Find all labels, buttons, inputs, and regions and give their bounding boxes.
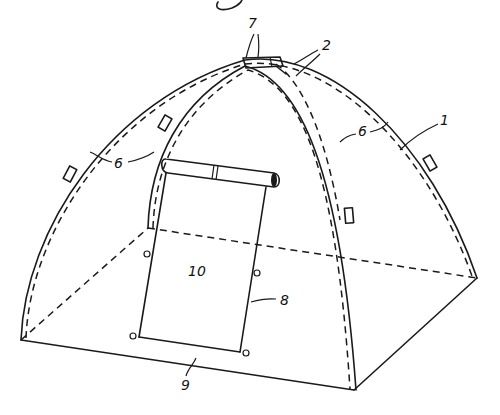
pole-clip-right <box>423 155 437 171</box>
svg-text:7: 7 <box>248 15 257 31</box>
svg-text:10: 10 <box>188 263 206 279</box>
inner-pole-arch <box>148 64 356 390</box>
svg-text:1: 1 <box>440 112 449 128</box>
tent-base <box>21 228 477 390</box>
svg-text:8: 8 <box>280 292 289 308</box>
svg-text:6: 6 <box>358 123 367 139</box>
label-8: 8 <box>251 292 289 308</box>
svg-text:2: 2 <box>322 37 331 53</box>
rolled-door-flap <box>162 159 280 187</box>
label-1: 1 <box>400 112 449 150</box>
pole-clip-left <box>63 166 77 182</box>
label-6-right: 6 <box>340 122 388 142</box>
pole-clip-center <box>344 208 353 224</box>
label-9: 9 <box>181 358 196 393</box>
svg-text:9: 9 <box>181 377 190 393</box>
dome-tent-patent-drawing: 7 2 1 6 6 10 8 9 <box>0 0 500 415</box>
svg-text:6: 6 <box>114 155 123 171</box>
pole-clip-upper-left <box>158 115 172 131</box>
figure-label-partial <box>217 0 242 10</box>
label-7: 7 <box>246 15 259 58</box>
label-10: 10 <box>188 263 206 279</box>
